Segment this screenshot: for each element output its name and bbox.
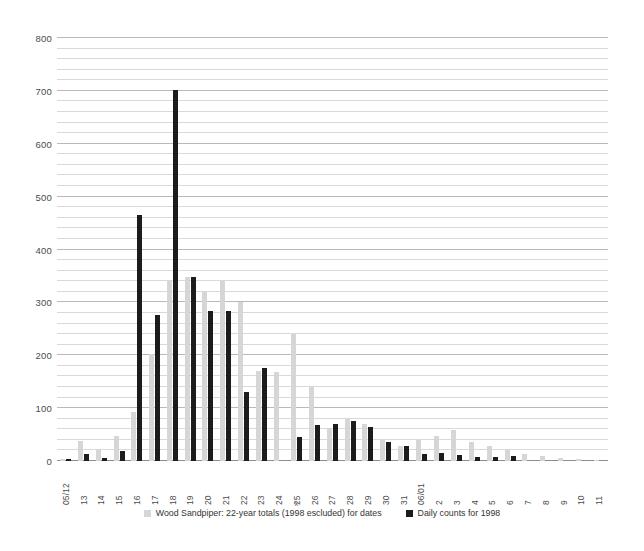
bar-totals — [149, 354, 154, 461]
legend-item-0[interactable]: Wood Sandpiper: 22-year totals (1998 esc… — [144, 508, 382, 518]
bar-totals — [380, 440, 385, 461]
bar-daily-1998 — [511, 456, 516, 461]
x-axis-tick-text: 19 — [185, 495, 195, 505]
x-axis-tick-label: 26 — [306, 465, 324, 505]
bar-totals — [202, 291, 207, 461]
bar-totals — [78, 441, 83, 461]
x-axis-tick-label: 20 — [199, 465, 217, 505]
bar-daily-1998 — [333, 424, 338, 461]
x-axis-tick-text: 6 — [505, 500, 515, 505]
bar-daily-1998 — [439, 453, 444, 461]
gridline-minor — [57, 174, 608, 175]
y-axis-tick-label: 100 — [4, 403, 52, 414]
x-axis-tick-label: 24 — [270, 465, 288, 505]
bar-daily-1998 — [262, 368, 267, 461]
x-axis-tick-text: 4 — [470, 500, 480, 505]
gridline-minor — [57, 153, 608, 154]
bar-totals — [558, 458, 563, 461]
bar-daily-1998 — [493, 457, 498, 461]
bar-totals — [114, 436, 119, 461]
gridline-major — [57, 143, 608, 144]
bar-totals — [291, 334, 296, 461]
x-axis-tick-text: 17 — [150, 495, 160, 505]
legend-text-1: Daily counts for 1998 — [418, 508, 501, 518]
x-axis-tick-label: 6 — [501, 465, 519, 505]
gridline-minor — [57, 69, 608, 70]
x-axis-tick-text: 05/12 — [61, 483, 71, 505]
x-axis-tick-text: 21 — [221, 495, 231, 505]
gridline-minor — [57, 100, 608, 101]
gridline-minor — [57, 164, 608, 165]
bar-daily-1998 — [297, 437, 302, 461]
x-axis-tick-text: 30 — [381, 495, 391, 505]
bar-totals — [487, 446, 492, 461]
x-axis-tick-label: 3 — [448, 465, 466, 505]
x-axis-tick-label: 4 — [466, 465, 484, 505]
bar-daily-1998 — [84, 454, 89, 461]
gridline-minor — [57, 185, 608, 186]
gridline-minor — [57, 79, 608, 80]
x-axis-tick-text: 18 — [168, 495, 178, 505]
bar-chart: 0100200300400500600700800 05/12131415161… — [0, 0, 644, 551]
bar-daily-1998 — [368, 427, 373, 461]
x-axis-tick-text: 10 — [576, 495, 586, 505]
x-axis-tick-label: 18 — [164, 465, 182, 505]
x-axis-tick-text: 22 — [239, 495, 249, 505]
y-axis-tick-label: 600 — [4, 139, 52, 150]
x-axis-tick-label: 05/12 — [57, 465, 75, 505]
x-axis-tick-label: 2 — [430, 465, 448, 505]
bar-totals — [522, 454, 527, 461]
legend-text-0: Wood Sandpiper: 22-year totals (1998 esc… — [156, 508, 382, 518]
bar-daily-1998 — [173, 90, 178, 461]
gridline-major — [57, 90, 608, 91]
x-axis-tick-label: 8 — [537, 465, 555, 505]
x-axis: 05/1213141516171819202122232425262728293… — [57, 463, 608, 505]
bar-totals — [185, 277, 190, 461]
bar-totals — [238, 302, 243, 461]
gridline-minor — [57, 122, 608, 123]
bar-totals — [220, 281, 225, 461]
x-axis-tick-label: 21 — [217, 465, 235, 505]
y-axis-tick-label: 200 — [4, 350, 52, 361]
bar-totals — [345, 419, 350, 461]
bar-totals — [256, 371, 261, 461]
bar-daily-1998 — [386, 442, 391, 461]
x-axis-tick-label: 28 — [341, 465, 359, 505]
x-axis-tick-label: 13 — [75, 465, 93, 505]
bar-daily-1998 — [351, 421, 356, 461]
x-axis-tick-text: 3 — [452, 500, 462, 505]
bar-daily-1998 — [404, 446, 409, 461]
legend-item-1[interactable]: Daily counts for 1998 — [406, 508, 501, 518]
bar-totals — [505, 449, 510, 461]
bar-totals — [274, 372, 279, 461]
x-axis-tick-text: 15 — [114, 495, 124, 505]
bar-daily-1998 — [422, 454, 427, 461]
chart-legend: Wood Sandpiper: 22-year totals (1998 esc… — [0, 508, 644, 518]
bar-totals — [131, 412, 136, 461]
bar-totals — [434, 436, 439, 461]
bar-totals — [540, 456, 545, 461]
x-axis-tick-text: 16 — [132, 495, 142, 505]
x-axis-tick-text: 31 — [399, 495, 409, 505]
bar-totals — [398, 446, 403, 461]
bar-daily-1998 — [137, 215, 142, 461]
y-axis-tick-label: 300 — [4, 297, 52, 308]
x-axis-tick-text: 28 — [345, 495, 355, 505]
y-axis-tick-label: 0 — [4, 456, 52, 467]
x-axis-tick-label: 17 — [146, 465, 164, 505]
y-axis-tick-label: 500 — [4, 192, 52, 203]
x-axis-tick-text: 29 — [363, 495, 373, 505]
bar-daily-1998 — [155, 315, 160, 461]
y-axis-tick-label: 800 — [4, 33, 52, 44]
legend-label-0: Wood Sandpiper: 22-year totals (1998 esc… — [156, 508, 382, 518]
legend-swatch-black — [406, 510, 413, 517]
gridline-major — [57, 37, 608, 38]
x-axis-tick-text: 20 — [203, 495, 213, 505]
x-axis-tick-label: 22 — [235, 465, 253, 505]
gridline-minor — [57, 111, 608, 112]
gridline-minor — [57, 132, 608, 133]
x-axis-tick-label: 06/01 — [412, 465, 430, 505]
x-axis-tick-label: 11 — [590, 465, 608, 505]
x-axis-tick-label: 19 — [181, 465, 199, 505]
bar-totals — [576, 459, 581, 461]
